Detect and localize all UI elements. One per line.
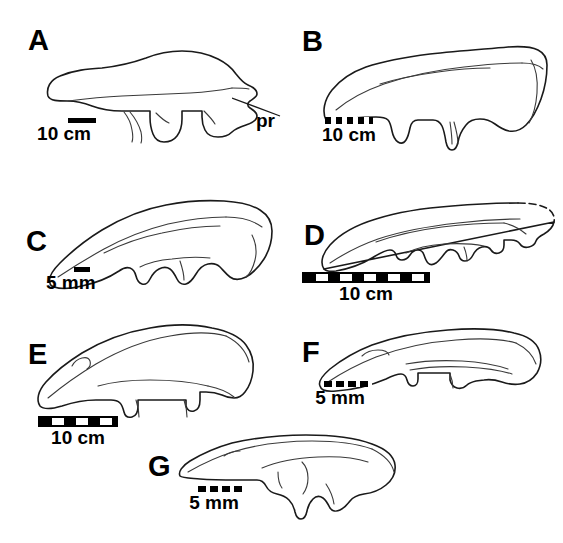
panel-a: A pr 10 cm: [0, 0, 290, 180]
panel-b: B 10 cm: [290, 0, 563, 180]
scalebar-bar-d: [302, 272, 430, 283]
scalebar-bar-e: [38, 416, 118, 427]
scalebar-e: 10 cm: [38, 416, 118, 448]
scalebar-f: 5 mm: [308, 381, 372, 408]
scalebar-label-f: 5 mm: [315, 388, 365, 408]
scalebar-label-g: 5 mm: [189, 493, 239, 513]
scalebar-c: 5 mm: [46, 267, 96, 293]
figure-plate: A pr 10 cm B: [0, 0, 563, 543]
scalebar-label-e: 10 cm: [51, 428, 105, 448]
specimen-drawing-e: [32, 320, 262, 422]
scalebar-bar-b: [325, 117, 373, 124]
scalebar-label-b: 10 cm: [322, 125, 376, 145]
panel-g: G 5 mm: [140, 430, 420, 543]
scalebar-label-d: 10 cm: [339, 284, 393, 304]
scalebar-d: 10 cm: [302, 272, 430, 304]
panel-c: C 5 mm: [0, 185, 290, 315]
panel-d: D 10 cm: [290, 185, 563, 315]
scalebar-label-c: 5 mm: [46, 273, 96, 293]
scalebar-b: 10 cm: [322, 117, 376, 145]
scalebar-a: 10 cm: [32, 118, 96, 144]
scalebar-g: 5 mm: [182, 486, 246, 513]
panel-f: F 5 mm: [290, 312, 563, 427]
scalebar-label-a: 10 cm: [37, 124, 91, 144]
annotation-pr: pr: [256, 110, 275, 132]
panel-letter-g: G: [148, 452, 171, 481]
